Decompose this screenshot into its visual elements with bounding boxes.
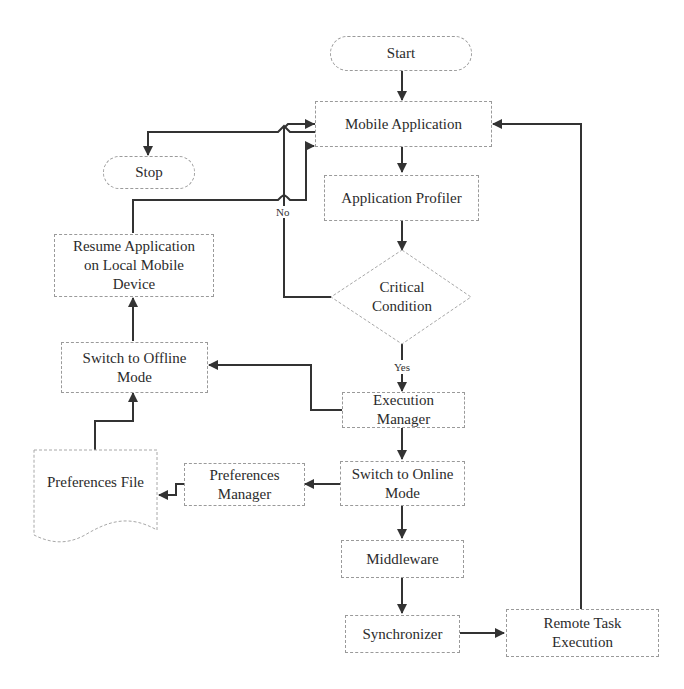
no-edge-label: No (275, 206, 290, 218)
remote-task-execution-label: Remote Task Execution (533, 614, 633, 652)
switch-online-node: Switch to Online Mode (340, 461, 465, 506)
edge-prefmgr-preffile (159, 484, 184, 495)
preferences-file-node: Preferences File (34, 462, 157, 502)
synchronizer-node: Synchronizer (345, 615, 460, 653)
preferences-manager-label: Preferences Manager (200, 466, 290, 504)
mobile-application-node: Mobile Application (315, 101, 492, 147)
preferences-file-label: Preferences File (47, 473, 144, 492)
edge-critical-no-top (284, 124, 315, 206)
resume-application-node: Resume Application on Local Mobile Devic… (54, 234, 214, 297)
edge-exec-offline (209, 365, 342, 410)
switch-offline-node: Switch to Offline Mode (61, 342, 208, 393)
switch-online-label: Switch to Online Mode (344, 465, 462, 503)
stop-label: Stop (135, 163, 163, 182)
application-profiler-label: Application Profiler (341, 189, 461, 208)
start-node: Start (330, 36, 472, 71)
critical-condition-node: Critical Condition (350, 275, 454, 319)
synchronizer-label: Synchronizer (363, 625, 443, 644)
switch-offline-label: Switch to Offline Mode (70, 349, 200, 387)
execution-manager-node: Execution Manager (342, 392, 465, 428)
remote-task-execution-node: Remote Task Execution (506, 609, 659, 657)
flowchart: Start Mobile Application Stop Applicatio… (0, 0, 684, 689)
execution-manager-label: Execution Manager (359, 391, 449, 429)
edge-critical-no-bottom (284, 218, 331, 297)
edge-remote-mobile (493, 124, 581, 609)
application-profiler-node: Application Profiler (324, 175, 479, 221)
start-label: Start (387, 44, 415, 63)
resume-application-label: Resume Application on Local Mobile Devic… (64, 237, 204, 294)
edge-mobile-stop (148, 126, 315, 155)
mobile-application-label: Mobile Application (345, 115, 462, 134)
preferences-manager-node: Preferences Manager (184, 463, 305, 506)
critical-condition-label: Critical Condition (362, 278, 442, 316)
middleware-label: Middleware (366, 550, 438, 569)
edge-preffile-offline (95, 393, 133, 450)
stop-node: Stop (103, 156, 195, 189)
yes-edge-label: Yes (393, 361, 411, 373)
middleware-node: Middleware (341, 540, 464, 578)
